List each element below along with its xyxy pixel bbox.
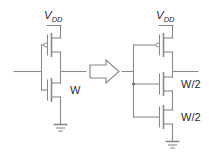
left-gate-bus — [14, 45, 42, 90]
right-pmos-transistor — [134, 33, 173, 57]
left-output-node — [61, 52, 87, 83]
right-gate-bus — [122, 45, 135, 117]
gate-junction-dot — [132, 83, 135, 86]
left-nmos-transistor — [42, 78, 61, 102]
circuit-diagram-canvas: VDD W — [0, 0, 209, 158]
right-nmos-lower-width-label: W/2 — [181, 111, 201, 123]
diagram-svg: VDD W — [0, 0, 209, 158]
right-supply-rail — [159, 26, 173, 39]
right-output-node — [173, 52, 199, 77]
right-supply-label-sub: DD — [164, 15, 175, 24]
right-ground-symbol — [166, 142, 180, 149]
left-nmos-width-label: W — [70, 84, 81, 96]
right-supply-label: VDD — [156, 9, 175, 24]
left-pmos-transistor — [42, 33, 61, 57]
right-nmos-lower-transistor — [134, 105, 173, 129]
right-nmos-upper-width-label: W/2 — [181, 78, 201, 90]
left-ground-symbol — [54, 125, 68, 132]
left-supply-rail — [47, 26, 61, 39]
implies-arrow-icon — [90, 60, 119, 83]
right-nmos-upper-transistor — [134, 72, 173, 96]
left-supply-label-sub: DD — [52, 15, 63, 24]
left-supply-label: VDD — [44, 9, 63, 24]
